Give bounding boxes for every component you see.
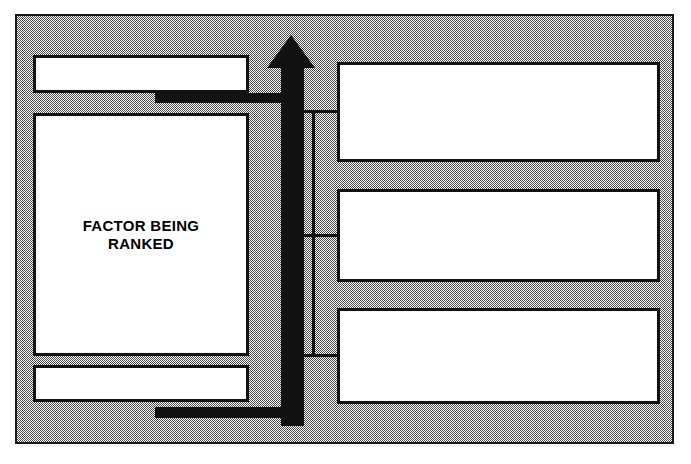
right-blank-box-1	[337, 62, 660, 162]
factor-being-ranked-label: FACTOR BEING RANKED	[83, 217, 200, 252]
diagram-canvas: FACTOR BEING RANKED	[0, 0, 691, 464]
factor-label-line1: FACTOR BEING	[83, 217, 200, 234]
branch-connector-1	[303, 110, 339, 113]
right-blank-box-3	[337, 308, 660, 404]
right-blank-box-2	[337, 189, 660, 282]
factor-being-ranked-box: FACTOR BEING RANKED	[33, 113, 249, 356]
ranking-scale-arrow-shaft	[281, 66, 304, 426]
factor-label-line2: RANKED	[108, 235, 174, 252]
upper-blank-box	[33, 55, 249, 93]
branch-connector-2	[303, 234, 339, 237]
ranking-scale-arrow-head	[267, 35, 315, 68]
lower-blank-box	[33, 365, 249, 402]
branch-vertical-connector-1	[312, 110, 315, 235]
bottom-connector-bar	[155, 407, 285, 418]
top-connector-bar	[155, 93, 285, 103]
branch-vertical-connector-2	[312, 234, 315, 355]
branch-connector-3	[303, 354, 339, 357]
